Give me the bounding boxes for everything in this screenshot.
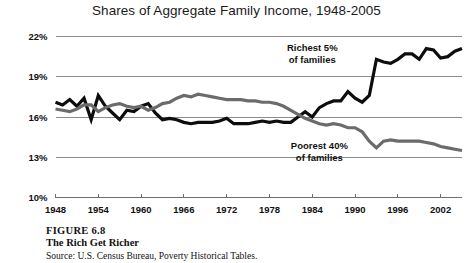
caption-source: Source: U.S. Census Bureau, Poverty Hist…: [46, 250, 466, 262]
x-axis-tick-2002: 2002: [430, 204, 451, 215]
series-annotation-richest-5-percent: Richest 5%of families: [287, 42, 338, 64]
annotation-line-1: Poorest 40%: [291, 140, 349, 151]
y-axis-tick-16%: 16%: [28, 112, 48, 123]
x-axis-tick-1954: 1954: [88, 204, 110, 215]
caption-block: FIGURE 6.8 The Rich Get Richer Source: U…: [46, 225, 466, 262]
x-axis-tick-1978: 1978: [259, 204, 280, 215]
y-axis-tick-19%: 19%: [28, 71, 48, 82]
y-axis-tick-22%: 22%: [28, 31, 48, 42]
x-axis-tick-1972: 1972: [216, 204, 237, 215]
x-axis-tick-1948: 1948: [45, 204, 66, 215]
x-axis-tick-1966: 1966: [173, 204, 194, 215]
chart-plot-area: 22%19%16%13%10%1948195419601966197219781…: [0, 0, 473, 225]
annotation-line-2: of families: [296, 152, 343, 163]
x-axis-tick-1990: 1990: [344, 204, 365, 215]
figure-container: Shares of Aggregate Family Income, 1948-…: [0, 0, 473, 263]
y-axis-tick-10%: 10%: [28, 192, 48, 203]
caption-title: The Rich Get Richer: [46, 237, 466, 250]
x-axis-tick-1960: 1960: [131, 204, 152, 215]
figure-number: FIGURE 6.8: [46, 225, 466, 237]
x-axis-tick-1984: 1984: [302, 204, 324, 215]
series-annotation-poorest-40-percent: Poorest 40%of families: [291, 140, 349, 163]
annotation-line-1: Richest 5%: [287, 42, 338, 53]
series-line-richest-5-percent: [56, 49, 463, 124]
x-axis-tick-1996: 1996: [387, 204, 408, 215]
annotation-line-2: of families: [289, 54, 336, 65]
y-axis-tick-13%: 13%: [28, 152, 48, 163]
